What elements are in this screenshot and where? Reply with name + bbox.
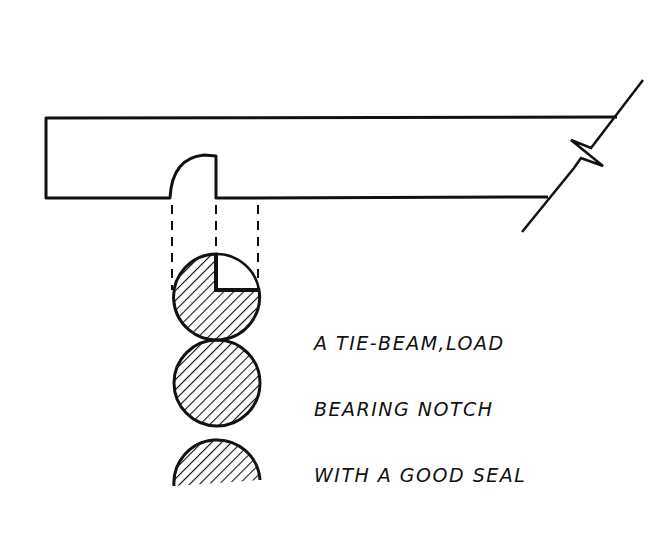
caption: A TIE-BEAM,LOAD BEARING NOTCH WITH A GOO… bbox=[314, 288, 526, 508]
log-2 bbox=[174, 340, 260, 426]
caption-line-1: A TIE-BEAM,LOAD bbox=[314, 332, 526, 354]
tie-beam bbox=[46, 117, 617, 198]
break-line bbox=[522, 80, 643, 232]
caption-line-3: WITH A GOOD SEAL bbox=[314, 464, 526, 486]
log-1 bbox=[174, 254, 260, 340]
log-3 bbox=[174, 440, 260, 486]
caption-line-2: BEARING NOTCH bbox=[314, 398, 526, 420]
